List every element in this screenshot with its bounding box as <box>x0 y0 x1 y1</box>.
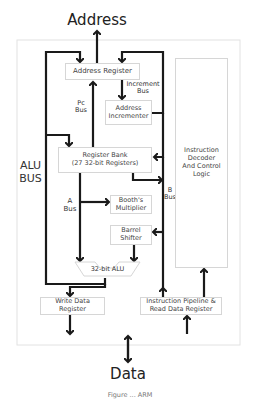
register-bank-block: Register Bank (27 32-bit Registers) <box>58 147 152 173</box>
a-bus-label: A Bus <box>61 197 79 213</box>
increment-bus-label: Increment Bus <box>124 81 162 96</box>
alu-bus-label: ALU BUS <box>17 160 44 185</box>
address-label: Address <box>67 12 127 29</box>
alu-block-label: 32-bit ALU <box>84 266 131 273</box>
booths-multiplier-block: Booth's Multiplier <box>110 195 152 214</box>
instruction-pipeline-block: Instruction Pipeline & Read Data Registe… <box>140 297 222 315</box>
write-data-register-block: Write Data Register <box>40 297 105 315</box>
instruction-decoder-block: Instruction Decoder And Control Logic <box>175 58 228 268</box>
address-register-block: Address Register <box>65 63 140 80</box>
pc-bus-label: Pc Bus <box>72 100 90 115</box>
barrel-shifter-block: Barrel Shifter <box>110 225 152 245</box>
data-label: Data <box>103 366 153 383</box>
figure-caption: Figure ... ARM <box>60 392 200 399</box>
address-incrementer-block: Address Incrementer <box>105 100 152 125</box>
